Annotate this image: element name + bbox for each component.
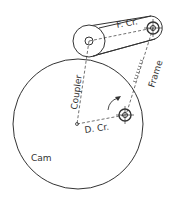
driving-crank-ground-pivot — [116, 106, 134, 124]
rotation-arrow-icon — [108, 96, 121, 110]
follower-crank-label: F. Cr. — [116, 16, 139, 30]
cam-label: Cam — [31, 153, 52, 163]
frame-label: Frame — [146, 58, 164, 88]
frame-hatching — [133, 60, 143, 82]
linkage-diagram: F. Cr. Coupler Frame D. Cr. Cam — [0, 0, 180, 199]
driving-crank-label: D. Cr. — [84, 122, 110, 135]
